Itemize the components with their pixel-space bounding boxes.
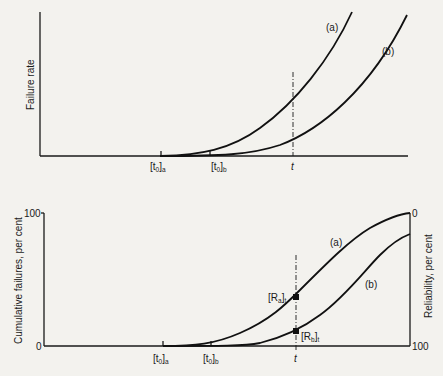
- curve-a-label: (a): [326, 22, 338, 33]
- tick-label-t0b: [t0]b: [203, 353, 219, 365]
- right-y-axis-label: Reliability, per cent: [423, 234, 434, 318]
- curve-b: [163, 234, 410, 346]
- point-ra-label: [Ra]t: [268, 292, 286, 304]
- curve-a: [161, 12, 352, 156]
- curve-b: [160, 15, 407, 156]
- tick-label-t0b: [t0]b: [211, 161, 227, 173]
- point-rb: [293, 328, 299, 334]
- tick-label-t0a: [t0]a: [150, 161, 166, 173]
- point-rb-label: [Rb]t: [301, 331, 319, 343]
- left-tick-100: 100: [24, 208, 41, 219]
- left-tick-0: 0: [36, 341, 42, 352]
- failure-rate-chart: Failure rate (a) (b) [t0]a [t0]b t: [25, 12, 408, 173]
- tick-label-t: t: [294, 353, 298, 364]
- tick-label-t0a: [t0]a: [153, 353, 169, 365]
- left-y-axis-label: Cumulative failures, per cent: [13, 217, 24, 344]
- tick-label-t: t: [291, 161, 295, 172]
- curve-b-label: (b): [382, 46, 394, 57]
- right-tick-100: 100: [412, 341, 429, 352]
- cumulative-failures-chart: 100 0 0 100 Cumulative failures, per cen…: [13, 208, 434, 365]
- right-tick-0: 0: [412, 208, 418, 219]
- reliability-diagram: Failure rate (a) (b) [t0]a [t0]b t 100 0…: [0, 0, 443, 376]
- point-ra: [293, 294, 299, 300]
- curve-a-label: (a): [330, 237, 342, 248]
- curve-b-label: (b): [365, 279, 377, 290]
- y-axis-label: Failure rate: [25, 59, 36, 110]
